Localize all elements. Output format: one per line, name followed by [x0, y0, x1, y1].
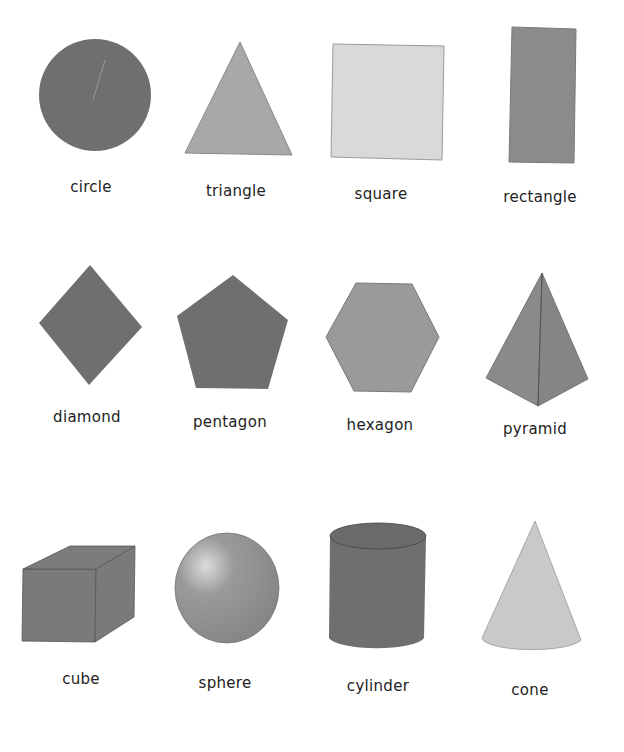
label-triangle: triangle	[206, 182, 266, 200]
shapes-chart: circle triangle square rectangle diamond…	[0, 0, 624, 752]
shapes-illustration	[0, 0, 624, 752]
circle-shape	[39, 39, 151, 151]
sphere-shape	[175, 533, 279, 643]
triangle-shape	[185, 42, 292, 155]
cylinder-shape	[329, 523, 426, 648]
pyramid-shape	[486, 273, 588, 406]
cube-shape	[22, 546, 135, 642]
pentagon-shape	[177, 275, 288, 389]
rectangle-shape	[509, 27, 576, 163]
label-sphere: sphere	[199, 674, 252, 692]
square-shape	[331, 44, 444, 160]
label-hexagon: hexagon	[347, 416, 414, 434]
label-cone: cone	[511, 681, 548, 699]
label-cylinder: cylinder	[347, 677, 409, 695]
hexagon-shape	[326, 283, 439, 392]
cone-shape	[482, 521, 581, 650]
label-cube: cube	[62, 670, 100, 688]
label-rectangle: rectangle	[503, 188, 577, 206]
label-square: square	[355, 185, 408, 203]
label-diamond: diamond	[53, 408, 121, 426]
label-circle: circle	[70, 178, 112, 196]
diamond-shape	[39, 265, 142, 385]
label-pentagon: pentagon	[193, 413, 267, 431]
label-pyramid: pyramid	[503, 420, 567, 438]
